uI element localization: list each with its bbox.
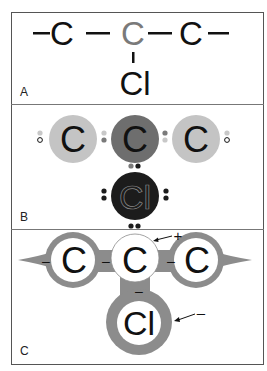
- panel-label-a: A: [20, 85, 28, 99]
- bond-right-end: [208, 32, 229, 35]
- atom-cl: Cl: [119, 65, 150, 102]
- atom-c1-symbol: C: [60, 119, 86, 160]
- electron: [101, 137, 106, 142]
- electron: [101, 130, 106, 135]
- electron: [128, 163, 133, 168]
- atom-c3-symbol: C: [183, 119, 209, 160]
- charge-bond-right: –: [167, 253, 175, 269]
- panel-label-c: C: [20, 344, 29, 358]
- electron: [162, 137, 167, 142]
- atom-cl-symbol: Cl: [119, 178, 151, 216]
- atom-c2-symbol: C: [122, 240, 148, 281]
- electron: [163, 188, 168, 193]
- atom-cl-symbol: Cl: [123, 304, 155, 342]
- electron-open: [225, 138, 230, 143]
- electron: [101, 188, 106, 193]
- electron: [224, 130, 229, 135]
- panel-label-b: B: [20, 210, 28, 224]
- sign-positive: +: [174, 227, 183, 244]
- bond-c2-cl: [132, 52, 135, 63]
- chlorination-diagram: C C C Cl A C C C Cl: [0, 0, 267, 371]
- charge-bond-left: –: [102, 253, 110, 269]
- charge-left-c: –: [42, 253, 50, 269]
- charge-below-center: –: [135, 283, 143, 299]
- bond-c1-c2: [86, 32, 110, 35]
- electron: [163, 195, 168, 200]
- electron: [37, 130, 42, 135]
- sign-negative: –: [197, 304, 206, 321]
- electron: [135, 223, 140, 228]
- electron: [128, 223, 133, 228]
- electron: [101, 195, 106, 200]
- electron-open: [38, 138, 43, 143]
- atom-c3: C: [179, 15, 203, 52]
- electron: [162, 130, 167, 135]
- atom-c2-symbol: C: [122, 119, 148, 160]
- atom-c1-symbol: C: [61, 240, 87, 281]
- atom-c1: C: [50, 15, 74, 52]
- atom-c2: C: [121, 15, 145, 52]
- electron: [135, 163, 140, 168]
- bond-left-end: [33, 32, 50, 35]
- bond-c2-c3: [148, 32, 172, 35]
- atom-c3-symbol: C: [184, 240, 210, 281]
